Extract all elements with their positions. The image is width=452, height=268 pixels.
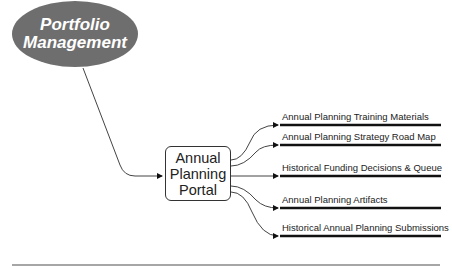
node-label: Portfolio (10, 16, 140, 34)
node-label: Planning (170, 166, 226, 182)
portfolio-management-node: Portfolio Management (10, 16, 140, 52)
branch-artifacts[interactable]: Annual Planning Artifacts (282, 194, 388, 205)
node-label: Portal (179, 182, 217, 198)
branch-funding-decisions[interactable]: Historical Funding Decisions & Queue (282, 162, 442, 173)
branch-historical-submissions[interactable]: Historical Annual Planning Submissions (282, 222, 449, 233)
branch-training-materials[interactable]: Annual Planning Training Materials (282, 111, 429, 122)
branch-strategy-road-map[interactable]: Annual Planning Strategy Road Map (282, 131, 436, 142)
annual-planning-portal-node: Annual Planning Portal (165, 146, 231, 201)
node-label: Management (10, 34, 140, 52)
node-label: Annual (175, 150, 220, 166)
